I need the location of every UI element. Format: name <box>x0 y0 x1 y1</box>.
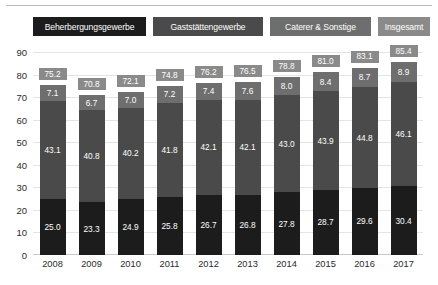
bar-segment[interactable]: 8.9 <box>391 62 417 82</box>
bar-segment-value: 41.8 <box>161 146 177 154</box>
bar-group[interactable]: 23.340.86.770.8 <box>79 52 105 255</box>
bar-segment[interactable]: 28.7 <box>313 190 339 255</box>
bar-segment[interactable]: 46.1 <box>391 82 417 186</box>
bar-group[interactable]: 26.842.17.676.5 <box>235 52 261 255</box>
x-axis-tick-label: 2009 <box>72 259 112 269</box>
legend-label: Insgesamt <box>385 22 424 32</box>
bar-segment-value: 30.4 <box>395 217 411 225</box>
bar-total-value: 70.8 <box>83 80 99 88</box>
bar-total-value: 83.1 <box>356 52 372 60</box>
bar-segment-value: 7.1 <box>47 89 59 97</box>
bar-segment[interactable]: 7.1 <box>40 85 66 101</box>
bar-segment-value: 8.7 <box>359 73 371 81</box>
bar-series-container: 25.043.17.175.223.340.86.770.824.940.27.… <box>33 52 423 255</box>
bar-segment-value: 43.1 <box>44 146 60 154</box>
x-axis-tick-label: 2016 <box>345 259 385 269</box>
bar-segment-value: 44.8 <box>356 134 372 142</box>
bar-total-badge: 76.5 <box>234 65 262 77</box>
bar-segment-value: 26.7 <box>200 221 216 229</box>
bar-segment[interactable]: 26.8 <box>235 195 261 255</box>
y-axis-tick-label: 60 <box>16 114 27 125</box>
bar-segment[interactable]: 7.4 <box>196 83 222 100</box>
legend-label: Beherbergungsgewerbe <box>45 22 135 32</box>
bar-segment[interactable]: 43.9 <box>313 91 339 190</box>
bar-segment[interactable]: 8.0 <box>274 77 300 95</box>
bar-segment[interactable]: 7.6 <box>235 82 261 99</box>
bar-segment[interactable]: 7.0 <box>118 92 144 108</box>
bar-group[interactable]: 25.841.87.274.8 <box>157 52 183 255</box>
bar-group[interactable]: 26.742.17.476.2 <box>196 52 222 255</box>
y-axis-tick-label: 90 <box>16 47 27 58</box>
legend-item-insgesamt[interactable]: Insgesamt <box>378 17 430 36</box>
bar-total-badge: 81.0 <box>312 55 340 67</box>
legend-item-beherbergungsgewerbe[interactable]: Beherbergungsgewerbe <box>33 17 146 36</box>
stacked-bar-chart: Beherbergungsgewerbe Gaststättengewerbe … <box>0 0 438 285</box>
y-axis-tick-label: 40 <box>16 159 27 170</box>
x-axis-tick-label: 2012 <box>189 259 229 269</box>
bar-segment[interactable]: 40.8 <box>79 110 105 202</box>
bar-segment[interactable]: 8.7 <box>352 68 378 88</box>
x-axis-tick-label: 2015 <box>306 259 346 269</box>
bar-segment[interactable]: 29.6 <box>352 188 378 255</box>
bar-segment[interactable]: 8.4 <box>313 72 339 91</box>
bar-total-value: 76.5 <box>239 67 255 75</box>
y-axis-tick-label: 10 <box>16 227 27 238</box>
bar-segment-value: 25.0 <box>44 223 60 231</box>
bar-segment[interactable]: 40.2 <box>118 108 144 199</box>
plot-area: 0102030405060708090 25.043.17.175.223.34… <box>33 52 423 255</box>
x-axis-tick-label: 2008 <box>33 259 73 269</box>
bar-group[interactable]: 24.940.27.072.1 <box>118 52 144 255</box>
bar-segment[interactable]: 41.8 <box>157 103 183 197</box>
bar-group[interactable]: 25.043.17.175.2 <box>40 52 66 255</box>
bar-segment-value: 8.0 <box>281 82 293 90</box>
bar-total-badge: 70.8 <box>78 78 106 90</box>
bar-segment[interactable]: 27.8 <box>274 192 300 255</box>
bar-segment[interactable]: 43.1 <box>40 101 66 198</box>
bar-segment[interactable]: 25.0 <box>40 199 66 255</box>
bar-segment[interactable]: 23.3 <box>79 202 105 255</box>
y-axis-tick-label: 80 <box>16 69 27 80</box>
bar-segment-value: 7.6 <box>242 87 254 95</box>
bar-segment[interactable]: 26.7 <box>196 195 222 255</box>
bar-segment-value: 26.8 <box>239 221 255 229</box>
legend-label: Caterer & Sonstige <box>285 22 356 32</box>
legend-item-gaststaettengewerbe[interactable]: Gaststättengewerbe <box>153 17 263 36</box>
bar-segment-value: 25.8 <box>161 222 177 230</box>
bar-total-value: 76.2 <box>200 68 216 76</box>
bar-segment-value: 42.1 <box>200 143 216 151</box>
y-axis-tick-label: 0 <box>22 250 27 261</box>
chart-legend: Beherbergungsgewerbe Gaststättengewerbe … <box>33 17 423 36</box>
bar-total-value: 78.8 <box>278 62 294 70</box>
bar-group[interactable]: 30.446.18.985.4 <box>391 52 417 255</box>
y-axis-tick-label: 30 <box>16 182 27 193</box>
bar-segment-value: 27.8 <box>278 220 294 228</box>
bar-segment[interactable]: 44.8 <box>352 87 378 188</box>
y-axis-tick-label: 70 <box>16 92 27 103</box>
bar-group[interactable]: 28.743.98.481.0 <box>313 52 339 255</box>
bar-total-badge: 85.4 <box>390 45 418 57</box>
bar-segment-value: 43.9 <box>317 137 333 145</box>
bar-segment[interactable]: 24.9 <box>118 199 144 255</box>
legend-item-caterer-sonstige[interactable]: Caterer & Sonstige <box>270 17 371 36</box>
x-axis-tick-label: 2011 <box>150 259 190 269</box>
bar-segment[interactable]: 7.2 <box>157 86 183 102</box>
bar-segment[interactable]: 6.7 <box>79 95 105 110</box>
bar-segment[interactable]: 42.1 <box>196 100 222 195</box>
bar-segment-value: 46.1 <box>395 130 411 138</box>
bar-segment[interactable]: 42.1 <box>235 100 261 195</box>
bar-group[interactable]: 29.644.88.783.1 <box>352 52 378 255</box>
bar-total-badge: 78.8 <box>273 60 301 72</box>
bar-segment[interactable]: 25.8 <box>157 197 183 255</box>
bar-group[interactable]: 27.843.08.078.8 <box>274 52 300 255</box>
x-axis-tick-label: 2017 <box>384 259 424 269</box>
bar-total-badge: 72.1 <box>117 75 145 87</box>
bar-segment-value: 42.1 <box>239 143 255 151</box>
bar-total-badge: 83.1 <box>351 51 379 63</box>
x-axis-tick-label: 2010 <box>111 259 151 269</box>
bar-segment[interactable]: 43.0 <box>274 95 300 192</box>
bar-segment-value: 29.6 <box>356 217 372 225</box>
bar-segment[interactable]: 30.4 <box>391 186 417 255</box>
bar-segment-value: 40.8 <box>83 152 99 160</box>
bar-total-badge: 76.2 <box>195 66 223 78</box>
bar-total-value: 72.1 <box>122 77 138 85</box>
